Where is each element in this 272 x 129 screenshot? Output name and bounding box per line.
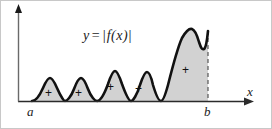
region-plus-sign-1: +: [45, 87, 52, 99]
x-axis-label: x: [247, 85, 253, 98]
equation-label: y=|f(x)|: [83, 28, 133, 43]
abs-bar-right: |: [128, 27, 133, 43]
graph-canvas: [1, 1, 272, 129]
figure-container: y=|f(x)| a b x + + + + +: [0, 0, 272, 129]
equation-function: f(x): [107, 28, 128, 43]
equation-operator: =: [90, 28, 102, 43]
region-plus-sign-5: +: [182, 64, 189, 76]
region-plus-sign-4: +: [135, 83, 142, 95]
y-axis-arrow-icon: [15, 4, 22, 13]
endpoint-label-a: a: [27, 105, 34, 118]
endpoint-label-b: b: [204, 105, 211, 118]
region-plus-sign-3: +: [107, 81, 114, 93]
equation-lhs: y: [83, 28, 90, 43]
region-plus-sign-2: +: [75, 87, 82, 99]
